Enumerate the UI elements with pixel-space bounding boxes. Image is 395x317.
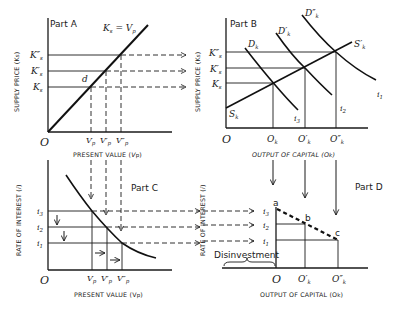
part-b-label-d1k: D′k (277, 26, 291, 37)
part-b-panel: Part B Dk D′k D″k S′k Sk i3 i2 i1 K″s K′… (194, 8, 383, 158)
part-d-point-a: a (273, 198, 279, 208)
part-d-x-axis-label: OUTPUT OF CAPITAL (Ok) (260, 291, 343, 298)
part-a-ytick-k2s: K″s (29, 50, 43, 61)
part-b-ytick-k1s: K′s (209, 64, 222, 75)
part-c-ytick-i3: i3 (37, 207, 44, 217)
part-c-origin: O (40, 274, 49, 287)
part-a-panel: Part A Ks = Vp d K″s K′s Ks O Vp V′p V″p… (13, 18, 186, 231)
part-c-x-axis-label: PRESENT VALUE (Vp) (74, 291, 143, 299)
part-b-ytick-ks: Ks (211, 79, 222, 90)
investment-demand-diagram: Part A Ks = Vp d K″s K′s Ks O Vp V′p V″p… (0, 0, 395, 317)
part-b-label-sk: Sk (229, 109, 239, 120)
part-b-demand-curve-dk (245, 48, 298, 110)
part-b-x-axis-label: OUTPUT OF CAPITAL (Ok) (252, 151, 335, 158)
part-c-xtick-v1p: V′p (101, 274, 113, 285)
part-b-xtick-o1k: O′k (298, 134, 311, 145)
part-a-origin: O (40, 136, 49, 149)
part-a-point-d: d (82, 74, 88, 84)
part-d-ytick-i2: i2 (263, 221, 270, 231)
part-a-45-degree-line (48, 25, 148, 132)
part-b-xtick-o2k: O″k (330, 134, 345, 145)
part-b-label-i3: i3 (294, 114, 301, 124)
part-b-xtick-ok: Ok (267, 134, 278, 145)
disinvestment-label: Disinvestment (214, 250, 279, 260)
part-d-point-b: b (305, 213, 311, 223)
part-b-demand-curve-d1k (276, 33, 332, 95)
part-d-panel: Part D a b c i3 i2 i1 Disinvestment O O′… (199, 160, 383, 298)
part-c-ytick-i2: i2 (37, 223, 44, 233)
part-d-title: Part D (355, 182, 383, 192)
part-b-label-s1k: S′k (354, 39, 366, 50)
part-b-y-axis-label: SUPPLY PRICE (Ks) (194, 52, 201, 112)
part-a-x-axis-label: PRESENT VALUE (Vp) (73, 151, 142, 159)
part-d-y-axis-label: RATE OF INTEREST (i) (199, 184, 206, 256)
part-a-title: Part A (50, 19, 78, 29)
part-a-ytick-k1s: K′s (30, 66, 43, 77)
part-b-label-i2: i2 (340, 104, 347, 114)
part-d-xtick-o2k: O″k (332, 274, 347, 285)
part-c-title: Part C (131, 183, 158, 193)
part-d-origin: O (272, 273, 281, 286)
part-d-ytick-i3: i3 (263, 207, 270, 217)
part-c-panel: Part C i3 i2 i1 O Vp V′p V″p PRESENT VAL… (15, 160, 200, 299)
part-a-curve-label: Ks = Vp (102, 23, 136, 35)
part-b-origin: O (222, 133, 231, 146)
part-b-title: Part B (230, 19, 257, 29)
part-a-xtick-v1p: V′p (100, 136, 112, 147)
part-a-ytick-ks: Ks (32, 82, 43, 93)
part-c-xtick-v2p: V″p (117, 274, 130, 285)
part-b-label-dk: Dk (247, 39, 259, 50)
part-c-ytick-i1: i1 (37, 239, 43, 249)
part-c-y-axis-label: RATE OF INTEREST (i) (15, 184, 22, 256)
part-a-y-axis-label: SUPPLY PRICE (Ks) (13, 52, 20, 112)
part-c-xtick-vp: Vp (87, 274, 97, 285)
part-d-point-c: c (335, 228, 340, 238)
part-d-ytick-i1: i1 (263, 237, 269, 247)
part-a-xtick-v2p: V″p (116, 136, 129, 147)
part-d-xtick-o1k: O′k (298, 274, 311, 285)
part-a-xtick-vp: Vp (86, 136, 96, 147)
part-b-label-i1: i1 (377, 90, 383, 100)
part-b-label-d2k: D″k (304, 8, 320, 19)
part-b-ytick-k2s: K″s (208, 48, 222, 59)
